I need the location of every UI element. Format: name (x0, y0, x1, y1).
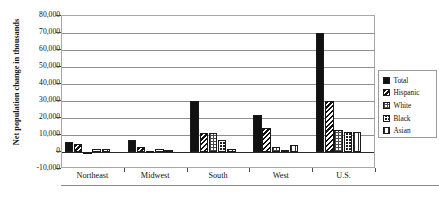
y-axis-tick-label: 20,000 (4, 112, 60, 121)
legend-item: Hispanic (383, 87, 436, 100)
x-axis-base-rule (61, 185, 439, 186)
bar (155, 149, 164, 152)
legend-item-label: Total (394, 76, 409, 85)
bar (128, 140, 137, 152)
bar (290, 145, 299, 152)
bar (334, 130, 343, 152)
legend-item-label: Hispanic (394, 88, 420, 97)
legend-item-label: Asian (394, 126, 411, 135)
zero-line (62, 152, 374, 153)
gridline (62, 50, 374, 51)
legend-swatch-icon (383, 115, 390, 122)
bar (102, 149, 111, 152)
bar (164, 150, 173, 152)
bar (74, 144, 83, 153)
bar (353, 132, 362, 152)
bar (262, 128, 271, 152)
y-axis-tick-label: -10,000 (4, 163, 60, 172)
legend: TotalHispanicWhiteBlackAsian (378, 70, 437, 138)
y-axis-tick-label: 70,000 (4, 27, 60, 36)
plot-area (61, 15, 375, 168)
bar (272, 147, 281, 152)
bar (325, 101, 334, 152)
bar (83, 152, 92, 154)
y-axis-tick-label: 60,000 (4, 44, 60, 53)
x-axis-category-label: South (187, 171, 250, 180)
y-axis-tick-label: 30,000 (4, 95, 60, 104)
bar (253, 115, 262, 152)
bar (344, 132, 353, 152)
legend-swatch-icon (383, 127, 390, 134)
legend-item-label: White (394, 101, 412, 110)
legend-swatch-icon (383, 77, 390, 84)
y-axis-tick-label: 10,000 (4, 129, 60, 138)
legend-item: Total (383, 74, 436, 87)
bar (146, 151, 155, 153)
y-axis-tick-label: 0 (4, 146, 60, 155)
bar (92, 149, 101, 152)
bar (227, 149, 236, 152)
y-axis-tick-label: 80,000 (4, 10, 60, 19)
gridline (62, 84, 374, 85)
bar-chart: Net population change in thousands 80,00… (0, 0, 439, 201)
bar (281, 150, 290, 152)
x-axis-category-label: Northeast (61, 171, 124, 180)
x-axis-category-label: Midwest (124, 171, 187, 180)
legend-item: White (383, 99, 436, 112)
bar (218, 140, 227, 152)
bar (209, 133, 218, 152)
bar (137, 147, 146, 152)
y-axis-tick-label: 50,000 (4, 61, 60, 70)
gridline (62, 67, 374, 68)
gridline (62, 33, 374, 34)
legend-item: Asian (383, 124, 436, 137)
legend-swatch-icon (383, 89, 390, 96)
bar (316, 33, 325, 152)
legend-item-label: Black (394, 114, 411, 123)
x-axis-category-label: West (249, 171, 312, 180)
y-axis-tick-mark (56, 168, 61, 169)
bar (65, 142, 74, 152)
y-axis-tick-label: 40,000 (4, 78, 60, 87)
legend-swatch-icon (383, 102, 390, 109)
legend-item: Black (383, 112, 436, 125)
x-axis-tick-mark (375, 168, 376, 172)
bar (200, 133, 209, 152)
bar (190, 101, 199, 152)
x-axis-category-label: U.S. (312, 171, 375, 180)
